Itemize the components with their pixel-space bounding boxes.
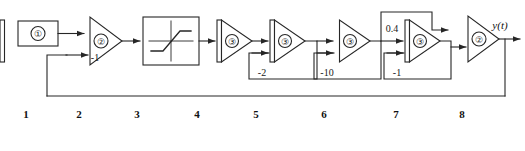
caption-2: 2 <box>76 108 82 120</box>
block-6-gain-label: -10 <box>320 67 333 78</box>
block-2-symbol: ② <box>97 37 105 47</box>
output-label: y(t) <box>491 19 508 32</box>
block-5-gain-label: -2 <box>258 67 266 78</box>
block-1-symbol: ① <box>34 29 42 39</box>
block-6-symbol: ③ <box>346 37 354 47</box>
block-4-symbol: ③ <box>228 37 236 47</box>
block-3-saturation[interactable] <box>143 17 199 65</box>
block-5-symbol: ③ <box>281 37 289 47</box>
caption-6: 6 <box>321 108 327 120</box>
block-7-gain-label: -1 <box>393 67 401 78</box>
caption-3: 3 <box>134 108 140 120</box>
block-2-gain-label: -1 <box>91 52 99 63</box>
caption-8: 8 <box>459 108 465 120</box>
block-diagram: ① ② -1 ③ <box>0 0 525 151</box>
caption-1: 1 <box>23 108 29 120</box>
block-7-input-gain-label: 0.4 <box>386 23 399 34</box>
diagram-canvas: ① ② -1 ③ <box>0 0 525 151</box>
wire-global-feedback-riser <box>47 55 67 96</box>
caption-4: 4 <box>194 108 200 120</box>
caption-7: 7 <box>393 108 399 120</box>
block-8-symbol: ② <box>475 35 483 45</box>
caption-5: 5 <box>253 108 259 120</box>
block-7-symbol: ③ <box>416 37 424 47</box>
